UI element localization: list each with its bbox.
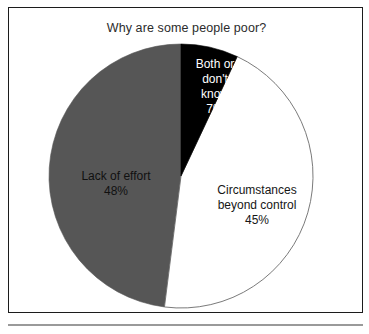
figure-frame: Why are some people poor? Lack of effort… <box>8 7 363 313</box>
pie-label-lack-of-effort: Lack of effort 48% <box>49 169 183 199</box>
pie-label-both-or-dont-know: Both or don't know 7% <box>183 57 247 117</box>
caption-divider-rule <box>8 324 363 326</box>
pie-chart-plot-area: Lack of effort 48% Circumstances beyond … <box>1 1 369 334</box>
pie-chart-svg <box>1 1 369 334</box>
pie-label-circumstances-beyond-control: Circumstances beyond control 45% <box>191 183 323 228</box>
